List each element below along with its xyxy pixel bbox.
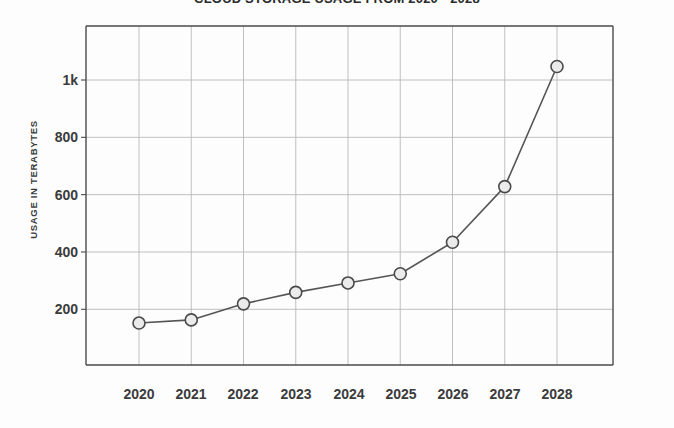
data-point-marker — [290, 286, 302, 298]
data-point-marker — [551, 61, 563, 73]
grid-lines — [86, 26, 613, 365]
data-point-marker — [499, 181, 511, 193]
data-point-marker — [447, 236, 459, 248]
cloud-storage-usage-chart: CLOUD STORAGE USAGE FROM 2020 - 2028 USA… — [0, 0, 674, 428]
data-point-marker — [342, 277, 354, 289]
y-axis-ticks — [81, 80, 86, 309]
data-point-marker — [185, 314, 197, 326]
data-point-marker — [394, 268, 406, 280]
plot-frame — [86, 26, 613, 365]
plot-area — [0, 0, 674, 428]
data-point-marker — [133, 317, 145, 329]
data-point-marker — [238, 298, 250, 310]
